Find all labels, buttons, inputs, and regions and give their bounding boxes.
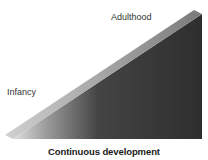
diagram-caption: Continuous development [0,146,208,157]
infancy-label: Infancy [7,87,36,97]
adulthood-label: Adulthood [111,12,152,22]
continuous-development-diagram: Adulthood Infancy Continuous development [0,0,208,160]
ramp-graphic [0,0,208,160]
